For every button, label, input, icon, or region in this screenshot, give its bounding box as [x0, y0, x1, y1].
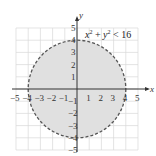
x-tick-label: 4 — [123, 93, 128, 103]
y-tick-label: 4 — [71, 35, 76, 45]
x-tick-label: 2 — [98, 93, 103, 103]
y-tick-label: −1 — [68, 96, 78, 106]
y-tick-label: −5 — [68, 145, 78, 155]
x-tick-label: 1 — [86, 93, 91, 103]
y-tick-label: −2 — [68, 108, 78, 118]
y-axis-label: y — [78, 10, 83, 20]
x-tick-label: −1 — [59, 93, 69, 103]
y-tick-label: 1 — [71, 72, 76, 82]
x-tick-label: 3 — [111, 93, 116, 103]
y-tick-label: −3 — [68, 121, 78, 131]
x-tick-label: −2 — [47, 93, 57, 103]
y-tick-label: −4 — [68, 133, 78, 143]
x-tick-label: −3 — [34, 93, 44, 103]
y-tick-label: 2 — [71, 60, 76, 70]
y-tick-label: 3 — [71, 47, 76, 57]
x-axis-label: x — [149, 84, 154, 94]
y-tick-label: 5 — [71, 23, 76, 33]
x-tick-label: 5 — [135, 93, 140, 103]
graph: xy−5−4−3−2−11234554321−1−2−3−4−5x2 + y2 … — [0, 0, 156, 156]
x-tick-label: −4 — [22, 93, 32, 103]
inequality-label: x2 + y2 < 16 — [84, 29, 131, 40]
x-tick-label: −5 — [10, 93, 20, 103]
